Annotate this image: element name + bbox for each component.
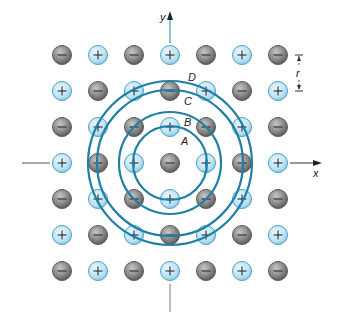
shell-label-b: B [184, 116, 191, 128]
x-axis-label: x [312, 167, 319, 179]
positive-ion [269, 154, 288, 173]
positive-ion [125, 82, 144, 101]
positive-ion [53, 82, 72, 101]
negative-ion [269, 118, 288, 137]
spacing-indicator: r [295, 55, 303, 91]
positive-ion [89, 190, 108, 209]
negative-ion [269, 46, 288, 65]
negative-ion [89, 82, 108, 101]
negative-ion [233, 82, 252, 101]
negative-ion [269, 262, 288, 281]
shell-label-d: D [188, 71, 196, 83]
spacing-label: r [296, 67, 301, 79]
positive-ion [197, 226, 216, 245]
spacing-arrow-up-icon [297, 56, 301, 61]
positive-ion [161, 262, 180, 281]
positive-ion [125, 226, 144, 245]
y-axis-arrow-icon [167, 11, 173, 20]
positive-ion [53, 154, 72, 173]
positive-ion [233, 46, 252, 65]
positive-ion [89, 262, 108, 281]
negative-ion [53, 46, 72, 65]
negative-ion [161, 154, 180, 173]
shell-label-a: A [180, 135, 188, 147]
negative-ion [197, 46, 216, 65]
positive-ion [197, 82, 216, 101]
positive-ion [89, 118, 108, 137]
negative-ion [53, 262, 72, 281]
negative-ion [53, 118, 72, 137]
negative-ion [269, 190, 288, 209]
negative-ion [89, 226, 108, 245]
y-axis-label: y [159, 11, 167, 23]
positive-ion [161, 46, 180, 65]
lattice-diagram: x y r A B C D [0, 0, 337, 329]
negative-ion [125, 262, 144, 281]
positive-ion [233, 262, 252, 281]
negative-ion [125, 46, 144, 65]
positive-ion [89, 46, 108, 65]
positive-ion [269, 226, 288, 245]
positive-ion [233, 190, 252, 209]
positive-ion [53, 226, 72, 245]
negative-ion [53, 190, 72, 209]
x-axis-arrow-icon [313, 160, 322, 166]
spacing-arrow-down-icon [297, 85, 301, 90]
negative-ion [197, 262, 216, 281]
negative-ion [233, 226, 252, 245]
shell-label-c: C [184, 95, 192, 107]
positive-ion [269, 82, 288, 101]
positive-ion [233, 118, 252, 137]
